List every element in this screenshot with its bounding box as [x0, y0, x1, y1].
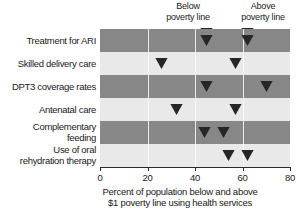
category-label-4-line-0: Complementary	[0, 121, 96, 132]
data-marker-down-arrow-icon	[198, 127, 211, 138]
x-axis-tick-label-0: 0	[85, 172, 115, 183]
x-axis-title-line-2: $1 poverty line using health services	[62, 197, 298, 208]
x-axis-tick	[195, 167, 196, 171]
gridline	[243, 29, 244, 167]
x-axis-tick-label-3: 60	[228, 172, 258, 183]
x-axis-tick-label-2: 40	[180, 172, 210, 183]
plot-area	[100, 29, 290, 167]
data-marker-down-arrow-icon	[241, 150, 254, 161]
category-label-0-line-0: Treatment for ARI	[0, 35, 96, 46]
category-label-4: Complementaryfeeding	[0, 121, 96, 143]
x-axis-tick-label-1: 20	[133, 172, 163, 183]
data-marker-down-arrow-icon	[222, 150, 235, 161]
x-axis-tick	[100, 167, 101, 171]
category-label-2-line-0: DPT3 coverage rates	[0, 81, 96, 92]
legend-below-line-1: Below	[152, 1, 224, 12]
legend-above-line-1: Above	[228, 1, 298, 12]
x-axis-title: Percent of population below and above $1…	[62, 186, 298, 208]
data-marker-down-arrow-icon	[217, 127, 230, 138]
legend-item-above-poverty-line: Above poverty line	[228, 1, 298, 22]
category-axis-labels: Treatment for ARISkilled delivery careDP…	[0, 29, 96, 167]
x-axis-tick	[148, 167, 149, 171]
data-marker-down-arrow-icon	[170, 104, 183, 115]
x-axis-tick	[243, 167, 244, 171]
data-marker-down-arrow-icon	[200, 81, 213, 92]
poverty-health-services-chart: Below poverty line Above poverty line Tr…	[0, 0, 298, 224]
legend-above-line-2: poverty line	[228, 12, 298, 23]
x-axis-title-line-1: Percent of population below and above	[62, 186, 298, 197]
category-label-2: DPT3 coverage rates	[0, 81, 96, 92]
category-label-3-line-0: Antenatal care	[0, 104, 96, 115]
category-label-5-line-0: Use of oral	[0, 144, 96, 155]
gridline	[195, 29, 196, 167]
category-label-5: Use of oralrehydration therapy	[0, 144, 96, 166]
x-axis-tick-label-4: 80	[275, 172, 298, 183]
category-label-1-line-0: Skilled delivery care	[0, 58, 96, 69]
legend-below-line-2: poverty line	[152, 12, 224, 23]
category-label-1: Skilled delivery care	[0, 58, 96, 69]
legend-item-below-poverty-line: Below poverty line	[152, 1, 224, 22]
data-marker-down-arrow-icon	[260, 81, 273, 92]
data-marker-down-arrow-icon	[229, 58, 242, 69]
data-marker-down-arrow-icon	[155, 58, 168, 69]
category-label-0: Treatment for ARI	[0, 35, 96, 46]
gridline	[148, 29, 149, 167]
category-label-5-line-1: rehydration therapy	[0, 155, 96, 166]
data-marker-down-arrow-icon	[241, 35, 254, 46]
x-axis-tick	[290, 167, 291, 171]
category-label-4-line-1: feeding	[0, 132, 96, 143]
data-marker-down-arrow-icon	[229, 104, 242, 115]
chart-legend: Below poverty line Above poverty line	[0, 1, 298, 28]
category-label-3: Antenatal care	[0, 104, 96, 115]
data-marker-down-arrow-icon	[200, 35, 213, 46]
